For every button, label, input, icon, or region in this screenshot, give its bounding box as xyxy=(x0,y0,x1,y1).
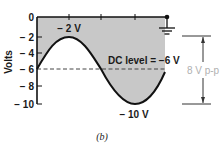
y-tick-label: − 4 xyxy=(20,48,35,59)
waveform-diagram: 0 − 2 − 4 − 6 − 8 − 10 Volts − 2 V DC le… xyxy=(0,0,224,146)
y-tick-label: − 2 xyxy=(20,32,35,43)
y-tick-label: − 8 xyxy=(20,81,35,92)
max-label: − 2 V xyxy=(57,23,81,34)
dc-level-label: DC level = −6 V xyxy=(108,55,180,66)
y-axis-label: Volts xyxy=(3,50,14,74)
y-tick-label: − 10 xyxy=(14,99,34,110)
y-tick-label: 0 xyxy=(28,12,34,23)
figure-caption: (b) xyxy=(96,131,108,143)
min-label: − 10 V xyxy=(119,109,149,120)
pp-label: 8 V p-p xyxy=(187,65,220,76)
y-tick-label: − 6 xyxy=(20,64,35,75)
